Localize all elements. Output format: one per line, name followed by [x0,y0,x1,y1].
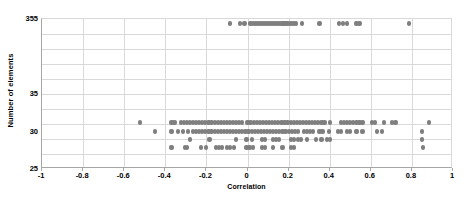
data-point [373,120,377,124]
data-point [320,129,324,133]
horizontal-gridline [42,154,451,155]
horizontal-gridline [42,94,451,95]
data-point [232,145,236,149]
horizontal-gridline [42,49,451,50]
data-point [294,21,298,25]
plot-area [41,18,452,168]
x-axis-tick-label: 0 [227,171,267,180]
data-point [314,137,318,141]
vertical-gridline [165,19,166,167]
data-point [339,129,343,133]
data-point [169,145,173,149]
x-axis-tick-label: -0.8 [62,171,102,180]
x-axis-tick-mark [288,168,289,171]
data-point [317,21,321,25]
x-axis-tick-label: 0.2 [268,171,308,180]
data-point [172,120,176,124]
data-point [186,129,190,133]
x-axis-tick-mark [205,168,206,171]
data-point [407,21,411,25]
data-point [354,129,358,133]
vertical-gridline [412,19,413,167]
x-axis-tick-label: 0.6 [350,171,390,180]
data-point [199,145,203,149]
data-point [138,120,142,124]
data-point [296,129,300,133]
data-point [319,137,323,141]
data-point [375,129,379,133]
data-point [277,137,281,141]
y-axis-tick-label: 355 [5,14,41,23]
data-point [204,145,208,149]
data-point [345,21,349,25]
data-point [207,137,211,141]
x-axis-tick-mark [411,168,412,171]
x-axis-tick-label: 0.8 [391,171,431,180]
x-axis-title-label: Correlation [227,183,265,190]
data-point [251,145,255,149]
vertical-gridline [371,19,372,167]
data-point [185,145,189,149]
data-point [322,120,326,124]
horizontal-gridline [42,109,451,110]
x-axis-tick-label: -0.2 [185,171,225,180]
horizontal-gridline [42,64,451,65]
data-point [382,120,386,124]
data-point [299,137,303,141]
x-axis-tick-label: -0.4 [144,171,184,180]
data-point [181,129,185,133]
data-point [328,120,332,124]
data-point [360,129,364,133]
y-axis-tick-labels: 355353025 [0,0,41,200]
data-point [300,21,304,25]
x-axis-tick-mark [164,168,165,171]
x-axis-tick-label: -0.6 [103,171,143,180]
x-axis-title: Correlation [41,183,452,190]
vertical-gridline [330,19,331,167]
data-point [420,137,424,141]
x-axis-tick-label: 1 [432,171,466,180]
x-axis-tick-mark [370,168,371,171]
data-point [263,145,267,149]
data-point [280,145,284,149]
data-point [188,137,192,141]
data-point [242,21,246,25]
data-point [169,129,173,133]
y-axis-tick-label: 35 [5,89,41,98]
x-axis-tick-mark [123,168,124,171]
data-point [360,120,364,124]
data-point [244,137,248,141]
data-point [250,137,254,141]
horizontal-gridline [42,79,451,80]
x-axis-tick-mark [452,168,453,171]
data-point [327,129,331,133]
x-axis-tick-mark [82,168,83,171]
x-axis-tick-mark [247,168,248,171]
clipped-caption-text [0,0,466,6]
data-point [153,129,157,133]
data-point [305,137,309,141]
data-point [271,145,275,149]
vertical-gridline [83,19,84,167]
data-point [220,145,224,149]
data-point [228,21,232,25]
y-axis-tick-label: 30 [5,126,41,135]
x-axis-tick-label: -1 [21,171,61,180]
data-point [263,137,267,141]
data-point [292,145,296,149]
data-point [357,21,361,25]
vertical-gridline [124,19,125,167]
horizontal-gridline [42,34,451,35]
data-point [311,129,315,133]
x-axis-tick-label: 0.4 [309,171,349,180]
data-point [348,129,352,133]
data-point [380,129,384,133]
data-point [234,137,238,141]
data-point [421,145,425,149]
scatter-chart: Number of elements 355353025 -1-0.8-0.6-… [0,0,466,200]
data-point [420,129,424,133]
data-point [393,120,397,124]
data-point [328,137,332,141]
x-axis-tick-mark [329,168,330,171]
data-point [176,129,180,133]
